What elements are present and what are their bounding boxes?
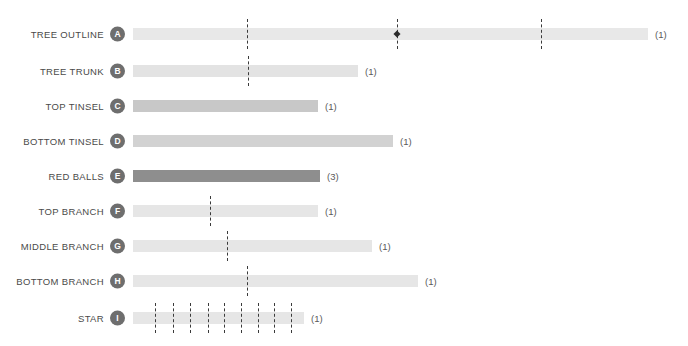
bar-area: (1) xyxy=(0,227,688,265)
dashed-divider-line xyxy=(173,303,174,333)
bar-area: (1) xyxy=(0,262,688,300)
row-count-label: (1) xyxy=(325,206,337,217)
dashed-divider-line xyxy=(541,19,542,49)
gantt-bar[interactable] xyxy=(133,240,372,252)
gantt-bar[interactable] xyxy=(133,28,648,40)
row-count-label: (3) xyxy=(327,171,339,182)
bar-area: (3) xyxy=(0,157,688,195)
dashed-divider-line xyxy=(210,196,211,226)
row-count-label: (1) xyxy=(311,313,323,324)
dashed-divider-line xyxy=(258,303,259,333)
dashed-divider-line xyxy=(208,303,209,333)
gantt-row[interactable]: BOTTOM BRANCHH(1) xyxy=(0,262,688,300)
dashed-divider-line xyxy=(247,266,248,296)
gantt-row[interactable]: RED BALLSE(3) xyxy=(0,157,688,195)
gantt-bar[interactable] xyxy=(133,170,320,182)
bar-area: (1) xyxy=(0,15,688,53)
gantt-row[interactable]: MIDDLE BRANCHG(1) xyxy=(0,227,688,265)
gantt-row[interactable]: TREE OUTLINEA(1) xyxy=(0,15,688,53)
bar-area: (1) xyxy=(0,87,688,125)
dashed-divider-line xyxy=(291,303,292,333)
row-count-label: (1) xyxy=(655,29,667,40)
gantt-row[interactable]: TOP TINSELC(1) xyxy=(0,87,688,125)
gantt-bar[interactable] xyxy=(133,205,318,217)
row-count-label: (1) xyxy=(365,66,377,77)
dashed-divider-line xyxy=(248,56,249,86)
bar-area: (1) xyxy=(0,192,688,230)
gantt-row[interactable]: BOTTOM TINSELD(1) xyxy=(0,122,688,160)
bar-area: (1) xyxy=(0,299,688,337)
row-count-label: (1) xyxy=(425,276,437,287)
gantt-chart: TREE OUTLINEA(1)TREE TRUNKB(1)TOP TINSEL… xyxy=(0,0,688,346)
dashed-divider-line xyxy=(274,303,275,333)
dashed-divider-line xyxy=(247,19,248,49)
dashed-divider-line xyxy=(190,303,191,333)
dashed-divider-line xyxy=(227,231,228,261)
row-count-label: (1) xyxy=(400,136,412,147)
dashed-divider-line xyxy=(155,303,156,333)
bar-area: (1) xyxy=(0,52,688,90)
gantt-bar[interactable] xyxy=(133,312,304,324)
gantt-row[interactable]: STARI(1) xyxy=(0,299,688,337)
row-count-label: (1) xyxy=(379,241,391,252)
gantt-bar[interactable] xyxy=(133,65,358,77)
bar-area: (1) xyxy=(0,122,688,160)
row-count-label: (1) xyxy=(325,101,337,112)
gantt-bar[interactable] xyxy=(133,135,393,147)
dashed-divider-line xyxy=(224,303,225,333)
gantt-bar[interactable] xyxy=(133,100,318,112)
dashed-divider-line xyxy=(241,303,242,333)
gantt-row[interactable]: TREE TRUNKB(1) xyxy=(0,52,688,90)
gantt-bar[interactable] xyxy=(133,275,418,287)
gantt-row[interactable]: TOP BRANCHF(1) xyxy=(0,192,688,230)
